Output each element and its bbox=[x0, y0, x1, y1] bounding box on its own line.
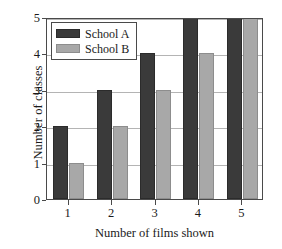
x-tick-label: 4 bbox=[195, 207, 201, 220]
legend-swatch-icon bbox=[56, 29, 80, 38]
x-tick-mark bbox=[155, 200, 156, 205]
y-tick-label: 1 bbox=[24, 157, 40, 170]
x-tick-label: 5 bbox=[238, 207, 244, 220]
x-axis-title: Number of films shown bbox=[46, 226, 263, 241]
bar bbox=[243, 19, 258, 199]
x-tick-mark bbox=[111, 200, 112, 205]
bar bbox=[183, 19, 198, 199]
bar bbox=[97, 90, 112, 199]
plot-area: School ASchool B bbox=[46, 18, 263, 200]
y-tick-label: 0 bbox=[24, 194, 40, 207]
bar bbox=[227, 19, 242, 199]
x-tick-mark bbox=[198, 200, 199, 205]
legend-item: School A bbox=[56, 26, 129, 41]
x-tick-mark bbox=[241, 200, 242, 205]
chart-legend: School ASchool B bbox=[51, 22, 137, 60]
legend-label: School A bbox=[85, 28, 129, 40]
bar bbox=[53, 126, 68, 199]
bar bbox=[113, 126, 128, 199]
x-tick-label: 3 bbox=[151, 207, 157, 220]
bar-chart-figure: Number of classes 012345 School ASchool … bbox=[0, 0, 282, 249]
bar bbox=[156, 90, 171, 199]
y-tick-label: 4 bbox=[24, 48, 40, 61]
x-tick-mark bbox=[68, 200, 69, 205]
legend-item: School B bbox=[56, 41, 129, 56]
y-tick-label: 2 bbox=[24, 121, 40, 134]
x-tick-label: 2 bbox=[108, 207, 114, 220]
y-tick-label: 5 bbox=[24, 12, 40, 25]
legend-swatch-icon bbox=[56, 44, 80, 53]
y-tick-label: 3 bbox=[24, 85, 40, 98]
x-axis-tick-labels: 12345 bbox=[46, 207, 263, 223]
bar bbox=[199, 53, 214, 199]
bar bbox=[69, 163, 84, 199]
x-tick-label: 1 bbox=[65, 207, 71, 220]
legend-label: School B bbox=[85, 43, 129, 55]
y-axis-tick-labels: 012345 bbox=[24, 0, 40, 249]
bar bbox=[140, 53, 155, 199]
